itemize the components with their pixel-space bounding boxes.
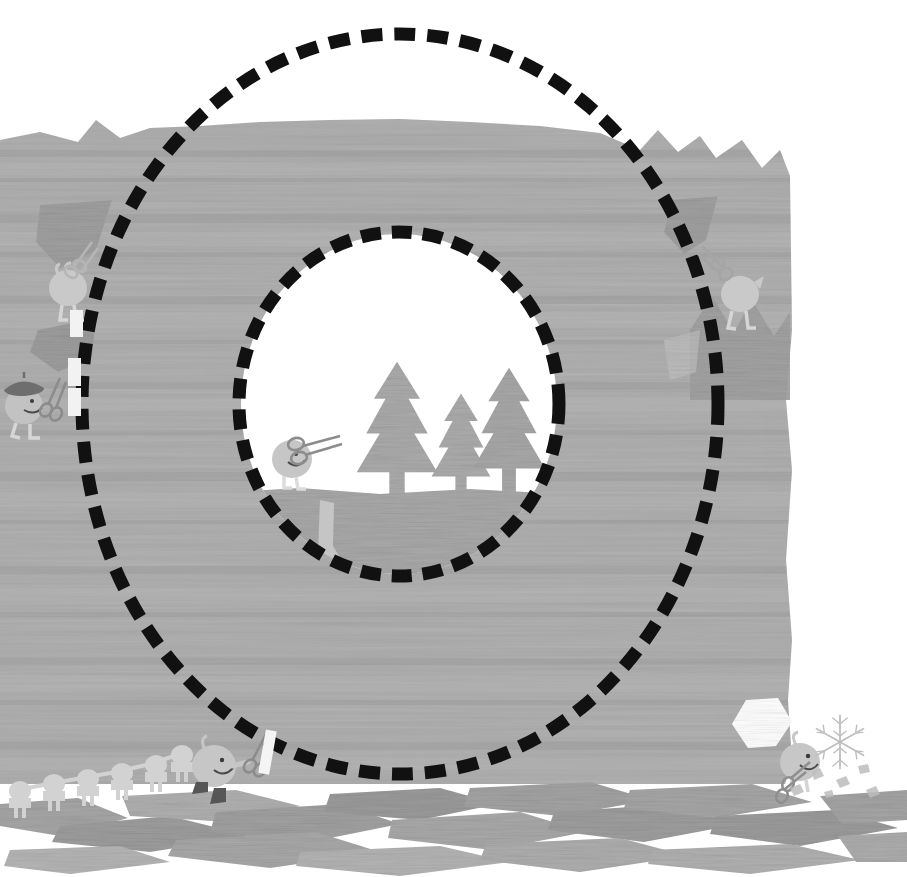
- elf-body: [192, 745, 236, 787]
- elf-body: [721, 276, 759, 312]
- paper-strip-left-a: [70, 310, 83, 337]
- paper-strip-left-b: [68, 358, 81, 386]
- paper-strip-left-c: [68, 388, 81, 416]
- illustration-stage: Paper-cut letter O An illustrated letter…: [0, 0, 907, 877]
- elf-eye: [30, 399, 34, 403]
- elf-eye: [220, 758, 224, 762]
- elf-eye: [806, 754, 810, 758]
- elf-leg-right: [806, 780, 808, 792]
- paper-cut-letter-o-artwork: [0, 0, 907, 877]
